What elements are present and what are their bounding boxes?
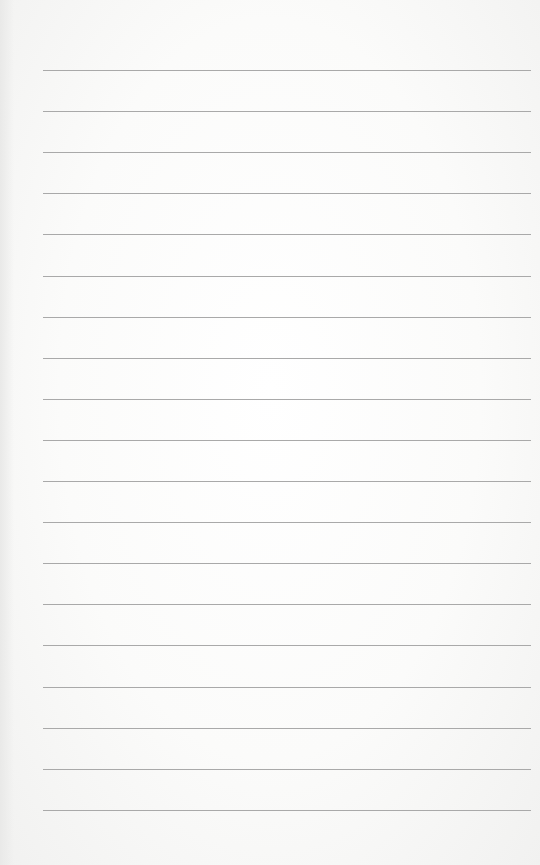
ruled-line: [43, 152, 531, 153]
ruled-line: [43, 604, 531, 605]
ruled-line: [43, 317, 531, 318]
ruled-line: [43, 481, 531, 482]
lined-paper-sheet: [0, 0, 540, 865]
ruled-line: [43, 522, 531, 523]
ruled-line: [43, 70, 531, 71]
ruled-line: [43, 728, 531, 729]
ruled-line: [43, 769, 531, 770]
ruled-line: [43, 440, 531, 441]
ruled-line: [43, 276, 531, 277]
ruled-line: [43, 810, 531, 811]
ruled-line: [43, 111, 531, 112]
ruled-line: [43, 399, 531, 400]
ruled-line: [43, 358, 531, 359]
ruled-line: [43, 193, 531, 194]
ruled-line: [43, 645, 531, 646]
ruled-line: [43, 563, 531, 564]
ruled-line: [43, 234, 531, 235]
ruled-line: [43, 687, 531, 688]
